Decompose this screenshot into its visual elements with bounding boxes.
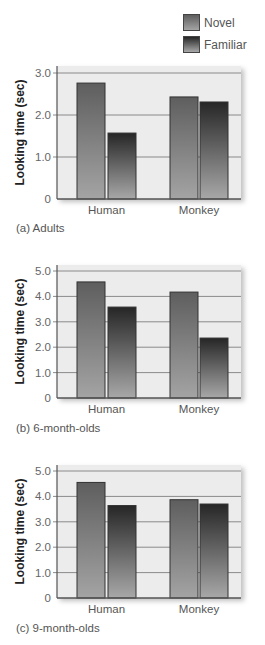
bar-human-familiar — [108, 506, 136, 598]
chart-9-month-olds: 01.02.03.04.05.0Looking time (sec)HumanM… — [0, 0, 265, 620]
x-tick-label: Monkey — [179, 603, 220, 615]
x-tick-label: Human — [88, 603, 125, 615]
chart-panel-9-month-olds: 01.02.03.04.05.0Looking time (sec)HumanM… — [0, 0, 265, 620]
y-tick-label: 2.0 — [35, 541, 51, 553]
y-axis-label: Looking time (sec) — [13, 478, 27, 584]
y-tick-label: 0 — [45, 592, 51, 604]
y-tick-label: 1.0 — [35, 567, 51, 579]
bar-monkey-familiar — [200, 504, 228, 598]
y-tick-label: 3.0 — [35, 516, 51, 528]
bar-monkey-novel — [170, 500, 198, 598]
caption-9-month-olds: (c) 9-month-olds — [16, 622, 100, 634]
y-tick-label: 5.0 — [35, 465, 51, 477]
bar-human-novel — [77, 482, 105, 598]
y-tick-label: 4.0 — [35, 490, 51, 502]
